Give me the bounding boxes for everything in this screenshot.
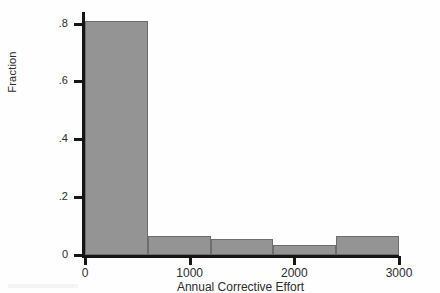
y-axis-title: Fraction <box>6 12 18 132</box>
y-tick-mark <box>74 254 83 257</box>
x-tick-label: 0 <box>50 266 120 280</box>
y-tick-label: .8 <box>28 18 68 28</box>
y-tick-mark <box>74 23 83 26</box>
histogram-bar <box>336 236 399 255</box>
histogram-bar <box>85 21 148 255</box>
x-tick-label: 1000 <box>155 266 225 280</box>
x-tick-mark <box>398 256 401 265</box>
y-tick-label: 0 <box>28 249 68 259</box>
histogram-bar <box>211 239 274 255</box>
plot-area <box>85 12 399 255</box>
x-tick-label: 2000 <box>259 266 329 280</box>
x-tick-mark <box>84 256 87 265</box>
y-tick-mark <box>74 138 83 141</box>
y-tick-mark <box>74 196 83 199</box>
x-axis-title: Annual Corrective Effort <box>82 280 399 293</box>
x-tick-label: 3000 <box>364 266 434 280</box>
histogram-bar <box>148 236 211 255</box>
histogram-bar <box>273 245 336 255</box>
y-tick-mark <box>74 80 83 83</box>
x-tick-mark <box>189 256 192 265</box>
x-tick-mark <box>293 256 296 265</box>
histogram-figure: Fraction 0.2.4.6.8 0100020003000 Annual … <box>0 0 440 293</box>
y-tick-label: .6 <box>28 75 68 85</box>
x-axis-line <box>82 255 399 258</box>
scan-artifact <box>8 284 78 288</box>
y-tick-label: .4 <box>28 133 68 143</box>
y-tick-label: .2 <box>28 191 68 201</box>
